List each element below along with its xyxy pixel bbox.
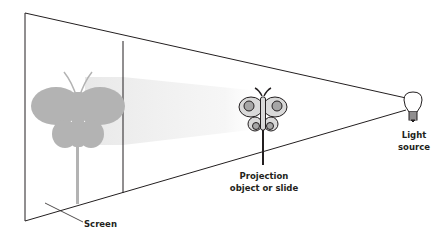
- light-source-label: Light source: [395, 129, 433, 153]
- light-label-line1: Light: [395, 129, 433, 141]
- projection-label-line1: Projection: [228, 170, 300, 182]
- light-label-line2: source: [395, 141, 433, 153]
- light-bulb-icon: [404, 92, 422, 122]
- top-ray-line: [25, 13, 406, 98]
- projection-object-label: Projection object or slide: [228, 170, 300, 194]
- projection-label-line2: object or slide: [228, 182, 300, 194]
- screen-label: Screen: [84, 218, 117, 230]
- projection-diagram: [0, 0, 445, 248]
